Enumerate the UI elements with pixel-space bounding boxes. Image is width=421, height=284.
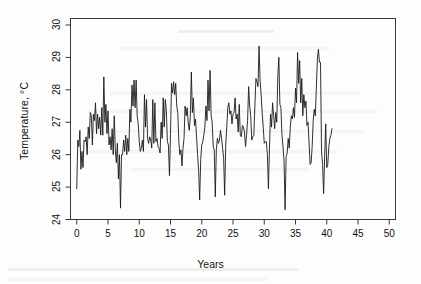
x-tick-label: 15 [161, 228, 181, 239]
x-axis-ticks [77, 220, 390, 225]
x-tick-label: 20 [192, 228, 212, 239]
x-tick-label: 5 [98, 228, 118, 239]
x-tick-label: 30 [254, 228, 274, 239]
chart-figure: 24252627282930 05101520253035404550 Temp… [0, 0, 421, 284]
x-axis-label: Years [0, 258, 421, 270]
temperature-series-line [77, 46, 332, 210]
y-tick-label: 27 [50, 113, 61, 131]
y-tick-label: 28 [50, 80, 61, 98]
x-tick-label: 25 [223, 228, 243, 239]
y-tick-label: 25 [50, 178, 61, 196]
chart-plot-area [0, 0, 421, 284]
x-tick-label: 50 [379, 228, 399, 239]
plot-frame [71, 19, 396, 220]
y-axis-ticks [66, 25, 71, 220]
x-tick-label: 10 [129, 228, 149, 239]
y-axis-label: Temperature, °C [18, 82, 30, 160]
y-tick-label: 30 [50, 15, 61, 33]
x-tick-label: 0 [67, 228, 87, 239]
x-tick-label: 35 [286, 228, 306, 239]
y-tick-label: 26 [50, 145, 61, 163]
y-tick-label: 24 [50, 210, 61, 228]
x-tick-label: 45 [348, 228, 368, 239]
y-tick-label: 29 [50, 48, 61, 66]
x-tick-label: 40 [317, 228, 337, 239]
